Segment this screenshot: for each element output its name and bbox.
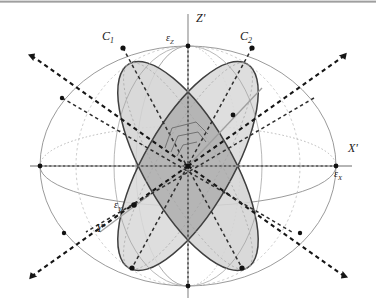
node-eps-y bbox=[131, 202, 137, 208]
indicatrix-diagram bbox=[0, 0, 376, 303]
circular-section-c1-label: C1 bbox=[102, 30, 114, 45]
eps-z-label: εZ bbox=[166, 33, 174, 46]
eps-y-label: εY bbox=[114, 200, 122, 213]
node-c2-lower bbox=[239, 265, 244, 270]
figure-canvas: Z' εZ X' εX εY Y' C1 C2 bbox=[0, 0, 376, 303]
node-c1-lower bbox=[129, 265, 134, 270]
node-rim-nw bbox=[60, 96, 64, 100]
node-x-left bbox=[38, 164, 43, 169]
axis-z-label: Z' bbox=[196, 12, 205, 24]
node-rim-sw bbox=[62, 231, 66, 235]
eps-x-label: εX bbox=[334, 169, 342, 182]
node-center bbox=[185, 163, 190, 168]
circular-section-c2-label: C2 bbox=[240, 30, 252, 45]
node-eps-z bbox=[186, 44, 191, 49]
node-c1 bbox=[120, 45, 125, 50]
node-rim-se bbox=[298, 231, 302, 235]
axis-y-label: Y' bbox=[96, 222, 105, 234]
node-rim-ne bbox=[231, 113, 236, 118]
node-z-bottom bbox=[186, 284, 191, 289]
node-c2 bbox=[249, 45, 254, 50]
axis-x-label: X' bbox=[348, 142, 358, 154]
